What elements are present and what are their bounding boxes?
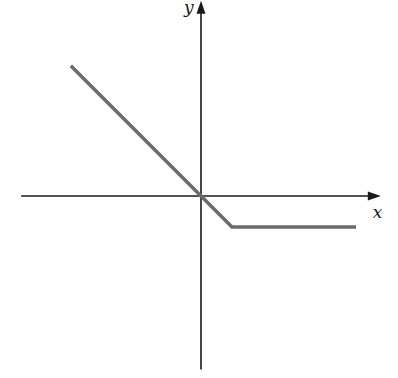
chart: x y (0, 0, 398, 378)
series-group (71, 66, 356, 227)
y-axis-arrow-icon (197, 1, 206, 14)
y-axis-label: y (183, 0, 194, 17)
x-axis-arrow-icon (368, 192, 381, 201)
series-line-piecewise (71, 66, 356, 227)
x-axis-label: x (373, 202, 383, 222)
